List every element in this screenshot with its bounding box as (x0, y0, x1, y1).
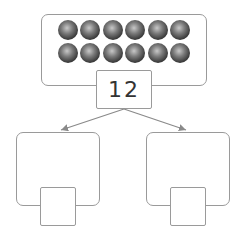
arrow-right-icon (124, 109, 186, 130)
arrow-left-icon (61, 109, 124, 130)
part-right-answer[interactable] (170, 187, 206, 226)
part-left-answer[interactable] (40, 187, 76, 226)
